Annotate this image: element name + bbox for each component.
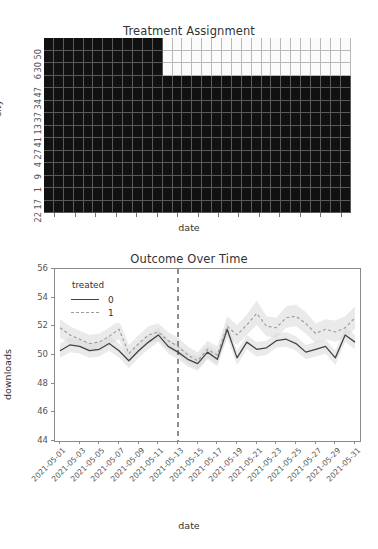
- heatmap-cell: [74, 101, 84, 114]
- heatmap-cell: [252, 38, 262, 51]
- heatmap-cell: [143, 101, 153, 114]
- heatmap-cell: [301, 88, 311, 101]
- heatmap-cell: [242, 101, 252, 114]
- heatmap-cell: [311, 201, 321, 214]
- heatmap-cell: [291, 101, 301, 114]
- heatmap-x-tick: [279, 213, 280, 217]
- heatmap-cell: [321, 188, 331, 201]
- heatmap-cell: [182, 51, 192, 64]
- line-x-tickmark: [256, 441, 257, 444]
- heatmap-cell: [64, 176, 74, 189]
- heatmap-cell: [44, 51, 54, 64]
- heatmap-cell: [222, 113, 232, 126]
- heatmap-cell: [153, 138, 163, 151]
- heatmap-cell: [143, 201, 153, 214]
- heatmap-cell: [93, 163, 103, 176]
- heatmap-cell: [242, 76, 252, 89]
- heatmap-cell: [291, 126, 301, 139]
- heatmap-cell: [212, 38, 222, 51]
- heatmap-cell: [331, 126, 341, 139]
- heatmap-cell: [173, 126, 183, 139]
- heatmap-cell: [291, 63, 301, 76]
- heatmap-cell: [311, 51, 321, 64]
- legend-item-treated[interactable]: 1: [71, 306, 114, 319]
- heatmap-cell: [192, 101, 202, 114]
- heatmap-cell: [74, 163, 84, 176]
- heatmap-cell: [222, 151, 232, 164]
- heatmap-row: [44, 88, 351, 101]
- heatmap-cell: [331, 88, 341, 101]
- heatmap-cell: [271, 163, 281, 176]
- legend-item-control[interactable]: 0: [71, 293, 114, 306]
- heatmap-cell: [222, 201, 232, 214]
- heatmap-cell: [103, 38, 113, 51]
- heatmap-cell: [113, 126, 123, 139]
- legend-dashed-line-icon: [71, 309, 99, 317]
- heatmap-cell: [202, 126, 212, 139]
- heatmap-cell: [232, 38, 242, 51]
- heatmap-cell: [143, 151, 153, 164]
- heatmap-cell: [123, 126, 133, 139]
- heatmap-cell: [163, 101, 173, 114]
- heatmap-cell: [93, 138, 103, 151]
- heatmap-cell: [301, 188, 311, 201]
- heatmap-cell: [54, 126, 64, 139]
- heatmap-y-tick: 9: [33, 174, 43, 179]
- heatmap-cell: [281, 201, 291, 214]
- heatmap-cell: [222, 88, 232, 101]
- heatmap-x-tick: [218, 213, 219, 217]
- heatmap-cell: [281, 126, 291, 139]
- line-x-tickmark: [334, 441, 335, 444]
- heatmap-cell: [54, 101, 64, 114]
- heatmap-x-tick: [95, 213, 96, 217]
- heatmap-y-tick: 47: [33, 87, 43, 97]
- heatmap-cell: [192, 113, 202, 126]
- heatmap-y-tick: 22: [33, 212, 43, 222]
- heatmap-cell: [192, 38, 202, 51]
- heatmap-cell: [341, 38, 351, 51]
- heatmap-cell: [64, 188, 74, 201]
- heatmap-cell: [232, 51, 242, 64]
- heatmap-cell: [84, 176, 94, 189]
- heatmap-cell: [74, 188, 84, 201]
- heatmap-cell: [291, 151, 301, 164]
- heatmap-cell: [222, 63, 232, 76]
- heatmap-cell: [222, 188, 232, 201]
- heatmap-cell: [103, 88, 113, 101]
- heatmap-cell: [173, 101, 183, 114]
- heatmap-row: [44, 113, 351, 126]
- heatmap-cell: [311, 188, 321, 201]
- heatmap-cell: [182, 63, 192, 76]
- line-plot-area: treated 0 1: [54, 268, 361, 442]
- heatmap-row: [44, 138, 351, 151]
- heatmap-cell: [103, 113, 113, 126]
- legend: treated 0 1: [65, 277, 121, 323]
- heatmap-cell: [163, 38, 173, 51]
- heatmap-cell: [281, 101, 291, 114]
- heatmap-cell: [133, 138, 143, 151]
- heatmap-cell: [163, 151, 173, 164]
- heatmap-cell: [331, 138, 341, 151]
- heatmap-cell: [44, 38, 54, 51]
- heatmap-cell: [232, 76, 242, 89]
- heatmap-cell: [232, 113, 242, 126]
- heatmap-cell: [321, 151, 331, 164]
- heatmap-cell: [212, 176, 222, 189]
- heatmap-cell: [93, 51, 103, 64]
- heatmap-cell: [64, 63, 74, 76]
- heatmap-cell: [143, 88, 153, 101]
- heatmap-cell: [93, 188, 103, 201]
- heatmap-cell: [44, 113, 54, 126]
- heatmap-cell: [271, 76, 281, 89]
- heatmap-cell: [222, 126, 232, 139]
- heatmap-cell: [212, 201, 222, 214]
- heatmap-cell: [341, 188, 351, 201]
- heatmap-cell: [54, 113, 64, 126]
- heatmap-cell: [74, 201, 84, 214]
- heatmap-cell: [74, 151, 84, 164]
- line-y-tick: 44: [22, 435, 48, 445]
- heatmap-cell: [173, 51, 183, 64]
- heatmap-cell: [123, 38, 133, 51]
- heatmap-cell: [123, 88, 133, 101]
- heatmap-x-tick: [320, 213, 321, 217]
